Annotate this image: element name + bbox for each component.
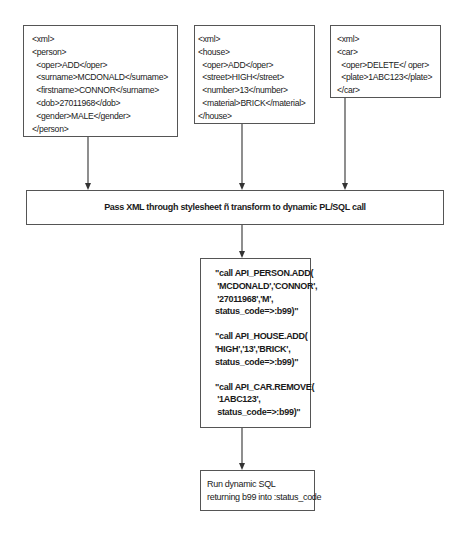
xml-line: <dob>27011968</dob> <box>32 97 177 110</box>
xml-house-box: <xml> <house> <oper>ADD</oper> <street>H… <box>194 25 315 124</box>
xml-line: <xml> <box>32 33 177 46</box>
xml-line: </house> <box>198 110 314 123</box>
call-line: status_code=>:b99)" <box>215 406 310 419</box>
call-line: 'HIGH','13','BRICK', <box>215 343 310 356</box>
xml-line: <firstname>CONNOR</surname> <box>32 84 177 97</box>
call-line: "call API_CAR.REMOVE( <box>215 381 310 394</box>
call-line: '27011968','M', <box>215 293 310 306</box>
call-house: "call API_HOUSE.ADD( 'HIGH','13','BRICK'… <box>215 330 310 368</box>
xml-line: </car> <box>337 84 440 97</box>
call-line: status_code=>:b99)" <box>215 356 310 369</box>
transform-step-box: Pass XML through stylesheet ñ transform … <box>26 190 444 225</box>
call-line: "call API_HOUSE.ADD( <box>215 330 310 343</box>
xml-line: <house> <box>198 46 314 59</box>
call-line: status_code=>:b99)" <box>215 305 310 318</box>
call-line: 'MCDONALD','CONNOR', <box>215 280 310 293</box>
call-line: '1ABC123', <box>215 393 310 406</box>
call-car: "call API_CAR.REMOVE( '1ABC123', status_… <box>215 381 310 419</box>
xml-line: <xml> <box>198 33 314 46</box>
run-line: returning b99 into :status_code <box>207 491 314 504</box>
xml-line: <surname>MCDONALD</surname> <box>32 71 177 84</box>
dynamic-calls-box: "call API_PERSON.ADD( 'MCDONALD','CONNOR… <box>200 258 311 428</box>
xml-person-box: <xml> <person> <oper>ADD</oper> <surname… <box>23 25 178 137</box>
xml-line: <person> <box>32 46 177 59</box>
call-line: "call API_PERSON.ADD( <box>215 267 310 280</box>
call-person: "call API_PERSON.ADD( 'MCDONALD','CONNOR… <box>215 267 310 318</box>
xml-line: </person> <box>32 123 177 136</box>
xml-line: <plate>1ABC123</plate> <box>337 71 440 84</box>
xml-line: <xml> <box>337 33 440 46</box>
xml-line: <car> <box>337 46 440 59</box>
xml-line: <oper>ADD</oper> <box>32 59 177 72</box>
xml-line: <material>BRICK</material> <box>198 97 314 110</box>
xml-line: <oper>ADD</oper> <box>198 59 314 72</box>
transform-step-label: Pass XML through stylesheet ñ transform … <box>104 202 366 212</box>
xml-line: <street>HIGH</street> <box>198 71 314 84</box>
run-line: Run dynamic SQL <box>207 478 314 491</box>
xml-line: <gender>MALE</gender> <box>32 110 177 123</box>
run-step-box: Run dynamic SQL returning b99 into :stat… <box>200 470 315 511</box>
xml-line: <oper>DELETE</ oper> <box>337 59 440 72</box>
xml-car-box: <xml> <car> <oper>DELETE</ oper> <plate>… <box>330 25 441 98</box>
xml-line: <number>13</number> <box>198 84 314 97</box>
